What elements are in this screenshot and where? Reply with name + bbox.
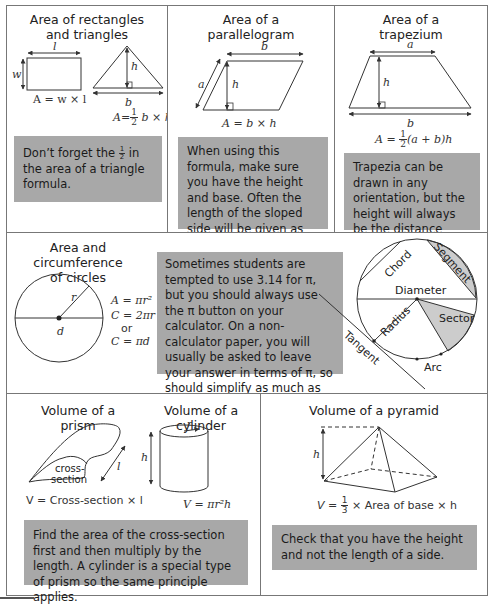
tip-box: Check that you have the height and not t… (272, 525, 477, 570)
tip-text: Don’t forget the (23, 146, 119, 160)
circle-parts-diagram: Chord Segment Diameter Radius Sector Tan… (345, 231, 485, 393)
rectangle-diagram: l w h b (7, 6, 169, 116)
svg-text:Segment: Segment (431, 240, 474, 286)
tip-box: Trapezia can be drawn in any orientation… (344, 153, 480, 230)
tip-text: Check that you have the height and not t… (281, 532, 463, 562)
svg-text:d: d (57, 325, 64, 338)
circle-area-formula: A = πr² (111, 294, 152, 307)
svg-text:h: h (141, 451, 148, 464)
svg-text:h: h (383, 76, 390, 89)
fraction: 12 (130, 108, 138, 127)
triangle-formula: A=12 b × h (113, 108, 172, 127)
svg-text:l: l (53, 40, 57, 53)
pyramid-diagram: h (261, 394, 489, 504)
svg-text:l: l (117, 460, 121, 473)
svg-text:Chord: Chord (382, 248, 414, 280)
svg-text:Radius: Radius (378, 304, 413, 339)
rectangle-formula: A = w × l (33, 93, 86, 106)
svg-text:b: b (261, 40, 268, 53)
cylinder-formula: V = πr²h (183, 498, 231, 511)
circle-diagram: r d (7, 233, 117, 333)
svg-text:a: a (198, 78, 205, 91)
tip-box: When using this formula, make sure you h… (178, 137, 328, 229)
svg-text:section: section (51, 474, 87, 485)
svg-text:Arc: Arc (424, 361, 442, 374)
or-label: or (121, 322, 132, 335)
svg-text:b: b (407, 117, 414, 130)
tip-box: Find the area of the cross-section first… (24, 520, 248, 585)
formula-part: V = (317, 499, 341, 512)
formula-part: A= (113, 111, 130, 124)
cylinder-diagram: r h (137, 394, 257, 504)
svg-text:cross-: cross- (55, 463, 85, 474)
svg-text:r: r (187, 419, 192, 429)
panel-rectangles-triangles: Area of rectangles and triangles l w h b… (6, 5, 168, 233)
pyramid-formula: V = 13 × Area of base × h (317, 496, 457, 515)
trapezium-formula: A = 12(a + b)h (375, 130, 452, 149)
svg-text:h: h (313, 448, 320, 461)
panel-prism-cylinder: Volume of a prism Volume of a cylinder l… (6, 393, 261, 596)
parallelogram-formula: A = b × h (222, 117, 277, 130)
svg-text:w: w (12, 68, 22, 81)
svg-text:Tangent: Tangent (340, 328, 382, 368)
tip-box: Don’t forget the 12 in the area of a tri… (14, 136, 162, 202)
panel-circles: Area and circumference of circles r d A … (6, 232, 488, 394)
svg-text:h: h (232, 78, 239, 91)
fraction: 12 (399, 130, 407, 149)
panel-pyramid: Volume of a pyramid h V = 13 × Area of b… (260, 393, 488, 596)
formula-part: A = (375, 133, 399, 146)
tip-text: Sometimes students are tempted to use 3.… (165, 257, 333, 411)
prism-diagram: l cross- section (7, 394, 137, 494)
prism-formula: V = Cross-section × l (26, 494, 143, 507)
page-footer-rule (0, 597, 34, 599)
trapezium-diagram: a h b (335, 6, 489, 131)
panel-trapezium: Area of a trapezium a h b A = 12(a + b)h… (334, 5, 488, 233)
svg-text:Sector: Sector (439, 312, 475, 325)
formula-text: V = Cross-section × l (26, 494, 143, 507)
svg-text:h: h (131, 60, 138, 73)
svg-text:a: a (407, 38, 414, 51)
svg-text:r: r (71, 291, 77, 304)
formula-part: × Area of base × h (348, 499, 457, 512)
circle-circumference-formula: C = 2πr (111, 309, 155, 322)
tip-box: Sometimes students are tempted to use 3.… (157, 252, 343, 374)
formula-part: (a + b)h (407, 133, 452, 146)
tip-text: Find the area of the cross-section first… (33, 528, 231, 604)
parallelogram-diagram: b a h (168, 6, 336, 126)
svg-text:Diameter: Diameter (395, 284, 447, 297)
panel-parallelogram: Area of a parallelogram b a h A = b × h … (167, 5, 335, 233)
circle-circumference-formula-alt: C = πd (111, 335, 150, 348)
